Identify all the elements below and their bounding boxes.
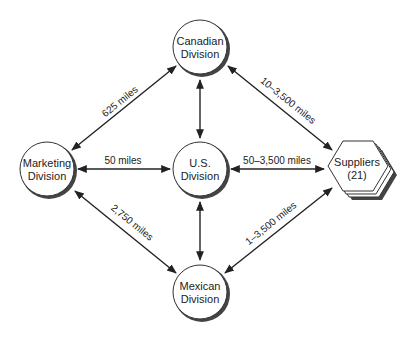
edge-label-50-3500: 50–3,500 miles: [243, 155, 311, 166]
svg-text:Mexican: Mexican: [180, 280, 221, 292]
svg-text:Marketing: Marketing: [23, 157, 71, 169]
node-canadian-division: Canadian Division: [173, 20, 230, 77]
node-marketing-division: Marketing Division: [20, 142, 77, 199]
supply-network-diagram: 625 miles 50 miles 2,750 miles 10–3,500 …: [0, 0, 419, 340]
node-suppliers: Suppliers (21): [328, 141, 397, 200]
edge-marketing-canadian: [72, 66, 176, 150]
edge-canadian-suppliers: [228, 66, 332, 150]
edge-label-2750: 2,750 miles: [109, 202, 156, 243]
edge-label-625: 625 miles: [100, 84, 140, 119]
svg-text:U.S.: U.S.: [189, 157, 210, 169]
svg-text:Division: Division: [181, 48, 220, 60]
svg-text:Division: Division: [28, 170, 67, 182]
edge-label-10-3500: 10–3,500 miles: [258, 75, 318, 126]
svg-text:Division: Division: [181, 293, 220, 305]
edge-label-1-3500: 1–3,500 miles: [243, 199, 298, 247]
svg-text:Suppliers: Suppliers: [334, 156, 380, 168]
node-us-division: U.S. Division: [173, 142, 230, 199]
edge-label-50: 50 miles: [104, 155, 141, 166]
node-mexican-division: Mexican Division: [173, 265, 230, 322]
svg-text:Division: Division: [181, 170, 220, 182]
svg-text:(21): (21): [347, 169, 367, 181]
edge-mexican-suppliers: [225, 188, 332, 273]
svg-text:Canadian: Canadian: [176, 35, 223, 47]
edge-marketing-mexican: [75, 191, 176, 273]
